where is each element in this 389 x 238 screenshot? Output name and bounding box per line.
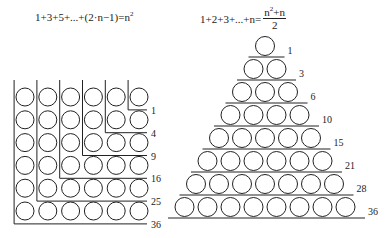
dot xyxy=(39,156,57,174)
dot xyxy=(130,202,148,220)
square-number-label: 16 xyxy=(151,173,161,184)
l-shape-border xyxy=(60,80,147,178)
dot xyxy=(84,179,102,197)
dot xyxy=(107,156,125,174)
dot xyxy=(256,175,275,194)
dot xyxy=(233,83,252,102)
triangular-number-label: 36 xyxy=(368,206,378,217)
dot xyxy=(16,134,34,152)
dot xyxy=(62,179,80,197)
dot xyxy=(267,60,286,79)
dot xyxy=(244,106,263,125)
dot xyxy=(39,111,57,129)
triangular-numbers-labels: 1361015212836 xyxy=(288,45,379,217)
dot xyxy=(210,129,229,148)
square-numbers-diagram xyxy=(14,80,148,224)
dot xyxy=(198,152,217,171)
dot xyxy=(84,156,102,174)
dot xyxy=(279,129,298,148)
dot xyxy=(336,198,355,217)
dot xyxy=(62,156,80,174)
diagram-canvas: 149162536 1361015212836 xyxy=(0,0,389,238)
l-shape-border xyxy=(14,80,147,224)
dot xyxy=(221,152,240,171)
dot xyxy=(256,129,275,148)
dot xyxy=(130,179,148,197)
dot xyxy=(256,37,275,56)
dot xyxy=(187,175,206,194)
dot xyxy=(107,134,125,152)
square-number-label: 1 xyxy=(151,105,156,116)
dot xyxy=(62,111,80,129)
dot xyxy=(62,134,80,152)
dot xyxy=(210,175,229,194)
dot xyxy=(221,198,240,217)
dot xyxy=(244,60,263,79)
dot xyxy=(16,179,34,197)
dot xyxy=(175,198,194,217)
dot xyxy=(39,202,57,220)
triangular-number-label: 28 xyxy=(357,183,367,194)
dot xyxy=(290,106,309,125)
triangular-number-label: 6 xyxy=(311,91,316,102)
triangular-number-label: 21 xyxy=(345,160,355,171)
dot xyxy=(267,152,286,171)
dot xyxy=(130,111,148,129)
dot xyxy=(233,175,252,194)
dot xyxy=(244,152,263,171)
dot xyxy=(221,106,240,125)
dot xyxy=(198,198,217,217)
dot xyxy=(39,88,57,106)
dot xyxy=(62,88,80,106)
triangular-number-label: 3 xyxy=(299,68,304,79)
dot xyxy=(130,134,148,152)
dot xyxy=(279,175,298,194)
dot xyxy=(39,179,57,197)
dot xyxy=(62,202,80,220)
triangular-number-label: 15 xyxy=(334,137,344,148)
square-number-label: 25 xyxy=(151,196,161,207)
dot xyxy=(84,134,102,152)
dot xyxy=(302,129,321,148)
dot xyxy=(279,83,298,102)
dot xyxy=(130,88,148,106)
dot xyxy=(16,88,34,106)
dot xyxy=(302,175,321,194)
dot xyxy=(130,156,148,174)
dot xyxy=(244,198,263,217)
square-number-label: 4 xyxy=(151,128,156,139)
dot xyxy=(313,152,332,171)
dot xyxy=(84,202,102,220)
dot xyxy=(256,83,275,102)
square-number-label: 9 xyxy=(151,151,156,162)
dot xyxy=(313,198,332,217)
dot xyxy=(84,111,102,129)
dot xyxy=(267,198,286,217)
dot xyxy=(290,198,309,217)
dot xyxy=(84,88,102,106)
dot xyxy=(16,156,34,174)
dot xyxy=(16,202,34,220)
triangular-numbers-diagram xyxy=(168,37,365,219)
dot xyxy=(39,134,57,152)
l-shape-border xyxy=(83,80,148,156)
dot xyxy=(107,202,125,220)
triangular-number-label: 1 xyxy=(288,45,293,56)
dot xyxy=(290,152,309,171)
dot xyxy=(233,129,252,148)
square-numbers-labels: 149162536 xyxy=(151,105,161,230)
dot xyxy=(107,111,125,129)
square-number-label: 36 xyxy=(151,219,161,230)
dot xyxy=(267,106,286,125)
dot xyxy=(16,111,34,129)
dot xyxy=(107,88,125,106)
dot xyxy=(325,175,344,194)
dot xyxy=(107,179,125,197)
triangular-number-label: 10 xyxy=(322,114,332,125)
